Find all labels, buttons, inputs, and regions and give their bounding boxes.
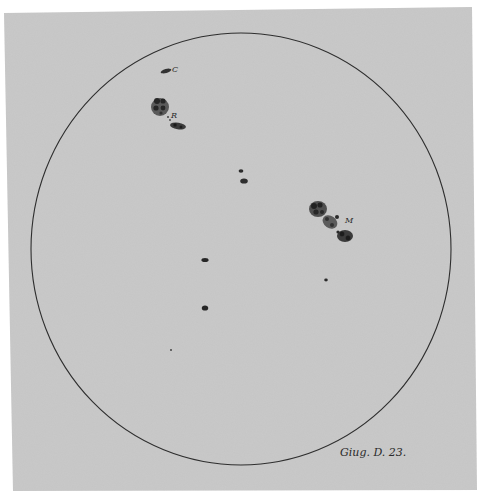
sunspot-small-1 <box>201 258 208 262</box>
date-caption: Giug. D. 23. <box>340 446 406 459</box>
spot-label-r: R <box>170 111 177 120</box>
sunspot-small-2 <box>202 305 208 310</box>
paper-grain <box>4 7 477 491</box>
sunspot-drawing: C R M Giug. D. 23. <box>0 0 479 498</box>
spot-label-c: C <box>172 65 178 74</box>
sunspot-dot <box>170 349 172 351</box>
spot-label-m: M <box>344 216 354 225</box>
sunspot-small-3 <box>324 279 328 282</box>
